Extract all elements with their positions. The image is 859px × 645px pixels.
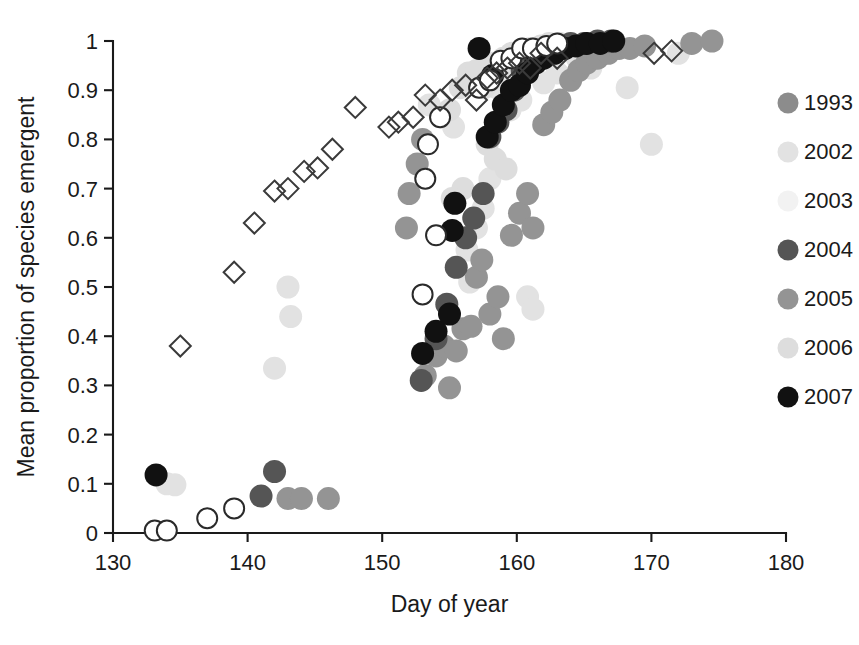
data-point-circle [460,315,483,338]
data-point-circle [290,487,313,510]
data-point-open-circle [415,169,435,189]
x-tick-label: 170 [633,550,670,575]
y-axis-title: Mean proportion of species emergent [13,96,39,478]
y-tick-label: 0.4 [67,324,98,349]
x-tick-label: 180 [768,550,805,575]
data-point-circle [486,285,509,308]
y-tick-label: 0.5 [67,275,98,300]
x-tick-label: 150 [364,550,401,575]
y-tick-label: 1 [86,29,98,54]
legend-item-2005[interactable]: 2005 [778,286,853,311]
data-point-circle [516,182,539,205]
legend-label-2006: 2006 [804,335,853,360]
y-tick-label: 0.3 [67,373,98,398]
legend-marker-1993 [778,93,799,114]
data-point-diamond [170,336,191,357]
data-point-circle [548,89,571,112]
legend-marker-2002 [778,142,799,163]
data-point-open-circle [413,284,433,304]
data-point-open-circle [224,498,244,518]
data-point-diamond [345,97,366,118]
y-tick-label: 0.2 [67,423,98,448]
x-tick-label: 160 [498,550,535,575]
data-point-circle [263,357,286,380]
data-point-open-circle [426,225,446,245]
legend-label-2003: 2003 [804,188,853,213]
data-point-circle [410,369,433,392]
legend-label-1993: 1993 [804,90,853,115]
series-1993 [170,40,682,356]
data-point-circle [279,305,302,328]
y-tick-label: 0.8 [67,127,98,152]
legend-label-2005: 2005 [804,286,853,311]
data-point-circle [472,182,495,205]
y-tick-label: 0.9 [67,78,98,103]
data-points-layer [145,30,724,541]
data-point-circle [276,276,299,299]
axis-labels-layer: 00.10.20.30.40.50.60.70.80.9113014015016… [13,29,804,617]
data-point-diamond [244,213,265,234]
data-point-circle [462,207,485,230]
data-point-circle [443,192,466,215]
data-point-circle [468,37,491,60]
data-point-circle [445,339,468,362]
legend-item-1993[interactable]: 1993 [778,90,853,115]
series-2002 [155,42,689,496]
data-point-circle [492,327,515,350]
data-point-diamond [224,262,245,283]
data-point-circle [470,248,493,271]
data-point-circle [317,487,340,510]
data-point-open-circle [197,508,217,528]
legend: 1993200220032004200520062007 [778,90,853,409]
data-point-diamond [322,139,343,160]
data-point-open-circle [480,70,500,90]
legend-marker-2005 [778,289,799,310]
y-tick-label: 0.1 [67,472,98,497]
data-point-circle [500,224,523,247]
data-point-circle [438,303,461,326]
legend-label-2007: 2007 [804,384,853,409]
data-point-circle [495,157,518,180]
legend-item-2006[interactable]: 2006 [778,335,853,360]
legend-label-2002: 2002 [804,139,853,164]
legend-marker-2007 [778,387,799,408]
data-point-circle [680,32,703,55]
figure-container: 00.10.20.30.40.50.60.70.80.9113014015016… [0,0,859,645]
y-tick-label: 0.7 [67,177,98,202]
data-point-circle [411,342,434,365]
legend-label-2004: 2004 [804,237,853,262]
data-point-open-circle [157,521,177,541]
x-tick-label: 130 [95,550,132,575]
legend-item-2003[interactable]: 2003 [778,188,853,213]
data-point-circle [700,30,723,53]
y-tick-label: 0.6 [67,226,98,251]
x-tick-label: 140 [229,550,266,575]
legend-item-2002[interactable]: 2002 [778,139,853,164]
legend-marker-2003 [778,191,799,212]
scatter-plot-canvas: 00.10.20.30.40.50.60.70.80.9113014015016… [0,0,859,645]
data-point-circle [445,256,468,279]
data-point-circle [263,460,286,483]
data-point-open-circle [418,134,438,154]
legend-item-2007[interactable]: 2007 [778,384,853,409]
data-point-circle [640,133,663,156]
legend-marker-2006 [778,338,799,359]
data-point-circle [395,216,418,239]
data-point-open-circle [547,33,567,53]
y-tick-label: 0 [86,521,98,546]
data-point-circle [145,463,168,486]
legend-marker-2004 [778,240,799,261]
x-axis-title: Day of year [391,591,509,617]
data-point-circle [616,76,639,99]
legend-item-2004[interactable]: 2004 [778,237,853,262]
data-point-circle [602,30,625,53]
data-point-circle [521,216,544,239]
data-point-circle [521,298,544,321]
data-point-circle [250,485,273,508]
data-point-circle [438,376,461,399]
